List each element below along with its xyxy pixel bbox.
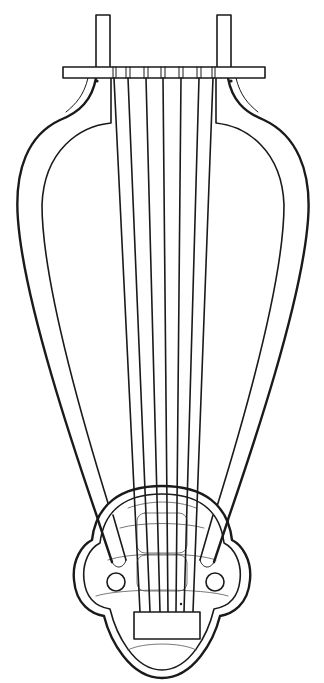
lyre-figure [0,0,324,683]
crossbar [63,67,265,78]
left-arm [17,78,126,566]
right-arm [200,78,309,566]
tuning-posts [96,15,231,68]
lyre-drawing [0,0,324,683]
